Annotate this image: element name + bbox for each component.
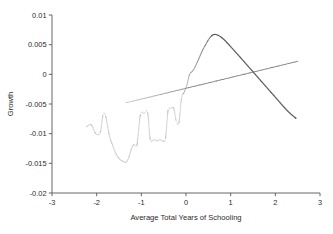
x-axis-title: Average Total Years of Schooling	[130, 213, 241, 222]
y-tick-label: 0.005	[28, 40, 47, 49]
x-tick-label: 3	[318, 198, 322, 207]
chart-container: 0.010.0050-0.005-0.01-0.015-0.02-3-2-101…	[0, 0, 333, 234]
y-tick-label: -0.005	[26, 100, 47, 109]
x-tick-label: -3	[49, 198, 56, 207]
y-tick-label: 0	[42, 70, 46, 79]
y-tick-label: -0.02	[30, 189, 47, 198]
x-tick-label: 1	[229, 198, 233, 207]
x-tick-label: -1	[138, 198, 145, 207]
x-tick-label: 0	[184, 198, 188, 207]
x-tick-label: 2	[273, 198, 277, 207]
data-series	[86, 34, 298, 163]
y-axis-title: Growth	[6, 92, 15, 116]
axis-labels: Growth Average Total Years of Schooling	[6, 92, 242, 222]
series-linear-fit	[125, 61, 298, 104]
y-tick-label: -0.015	[26, 159, 47, 168]
y-tick-label: 0.01	[32, 11, 46, 20]
series-nonparametric-fit	[86, 34, 296, 163]
growth-vs-schooling-chart: 0.010.0050-0.005-0.01-0.015-0.02-3-2-101…	[0, 0, 333, 234]
y-tick-label: -0.01	[30, 129, 47, 138]
x-tick-label: -2	[93, 198, 100, 207]
